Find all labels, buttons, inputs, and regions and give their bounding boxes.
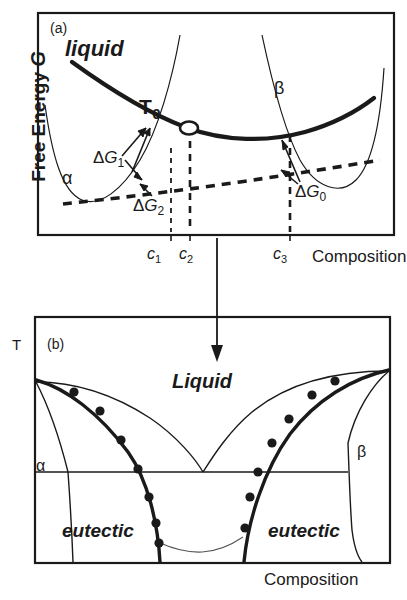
panel-a-tick-label-c1: c1 xyxy=(147,245,161,265)
panel-a-liquid-curve xyxy=(72,62,374,139)
g-subscript: 2 xyxy=(158,204,165,218)
tick-subscript: 1 xyxy=(155,253,161,265)
panel-a-y-axis-label: Free Energy G xyxy=(27,27,50,207)
delta-symbol: Δ xyxy=(295,182,306,201)
panel-a-delta-g2-label: ΔG2 xyxy=(133,196,164,218)
panel-a-x-axis-label: Composition xyxy=(312,247,407,267)
tick-letter: c xyxy=(273,245,281,262)
panel-b-eutectic-label-right: eutectic xyxy=(268,520,340,542)
panel-b-y-axis-label: T xyxy=(12,336,21,353)
g-symbol: G xyxy=(144,196,157,215)
panel-a-t0-marker xyxy=(180,122,198,135)
tick-subscript: 3 xyxy=(281,253,287,265)
figure-root: Free Energy G (a) liquid α β T0 ΔG1 ΔG2 … xyxy=(0,0,407,600)
g-symbol: G xyxy=(306,182,319,201)
panel-connector-arrow xyxy=(211,238,223,362)
panel-a-beta-curve xyxy=(262,35,384,188)
panel-b-tag: (b) xyxy=(47,336,64,352)
tick-letter: c xyxy=(147,245,155,262)
panel-b-eutectic-label-left: eutectic xyxy=(62,520,134,542)
panel-a-delta-g0-label: ΔG0 xyxy=(295,182,326,204)
panel-a-alpha-label: α xyxy=(62,168,72,189)
delta-symbol: Δ xyxy=(93,148,104,167)
g-subscript: 1 xyxy=(118,156,125,170)
panel-a-delta-g1-label: ΔG1 xyxy=(93,148,124,170)
panel-a-beta-label: β xyxy=(274,78,284,99)
panel-b-solvus-alpha xyxy=(68,472,73,562)
panel-a-y-axis-symbol: G xyxy=(27,51,49,67)
panel-b-liquid-label: Liquid xyxy=(172,370,232,393)
panel-b-metastable-curve xyxy=(160,537,243,552)
panel-a-tick-label-c3: c3 xyxy=(273,245,287,265)
tick-letter: c xyxy=(179,245,187,262)
panel-b-x-axis-label: Composition xyxy=(264,570,359,590)
panel-b-alpha-label: α xyxy=(36,457,45,475)
panel-a-t0-subscript: 0 xyxy=(152,105,161,122)
panel-a-tick-label-c2: c2 xyxy=(179,245,193,265)
figure-vector-layer xyxy=(0,0,407,600)
tick-subscript: 2 xyxy=(187,253,193,265)
panel-b-liquidus-left xyxy=(36,382,203,472)
panel-a-t0-letter: T xyxy=(139,95,152,118)
panel-a-dg1-arrows xyxy=(122,128,150,180)
delta-symbol: Δ xyxy=(133,196,144,215)
panel-b-beta-label: β xyxy=(357,443,366,461)
g-subscript: 0 xyxy=(320,190,327,204)
panel-a-t0-label: T0 xyxy=(139,95,161,122)
panel-a-liquid-label: liquid xyxy=(65,36,124,62)
g-symbol: G xyxy=(104,148,117,167)
panel-a-tag: (a) xyxy=(50,20,67,36)
panel-a-y-axis-text: Free Energy xyxy=(28,72,49,182)
